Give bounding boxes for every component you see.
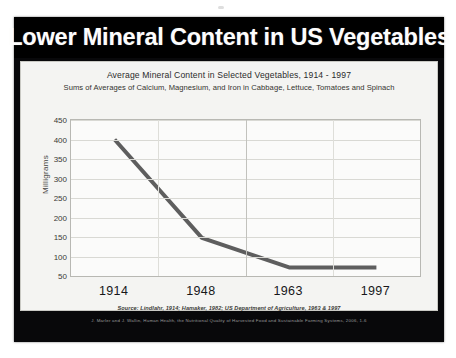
y-axis-tick-label: 150 bbox=[23, 233, 67, 242]
y-axis-tick-label: 50 bbox=[23, 272, 67, 281]
paper-speck bbox=[218, 6, 224, 9]
y-axis-tick-label: 100 bbox=[23, 252, 67, 261]
gridline-vertical bbox=[158, 120, 159, 276]
x-axis-tick-label: 1914 bbox=[69, 284, 159, 298]
chart-panel: Average Mineral Content in Selected Vege… bbox=[20, 61, 438, 311]
x-axis-tick-label: 1948 bbox=[156, 284, 246, 298]
y-axis-tick-label: 250 bbox=[23, 194, 67, 203]
x-axis-tick-label: 1997 bbox=[330, 284, 420, 298]
slide-title-band: Lower Mineral Content in US Vegetables bbox=[14, 17, 444, 58]
chart-source-note: Source: Lindlahr, 1914; Hamaker, 1982; U… bbox=[21, 305, 437, 311]
plot-area bbox=[70, 119, 421, 277]
x-axis-tick-label: 1963 bbox=[243, 284, 333, 298]
footer-citation: J. Marler and J. Wallin, Human Health, t… bbox=[14, 318, 444, 323]
y-axis-tick-labels: 45040035030025020015010050 bbox=[21, 119, 67, 277]
presentation-slide: Lower Mineral Content in US Vegetables A… bbox=[14, 17, 444, 342]
y-axis-tick-label: 350 bbox=[23, 155, 67, 164]
gridline-vertical bbox=[246, 120, 247, 276]
y-axis-tick-label: 300 bbox=[23, 174, 67, 183]
x-axis-tick-labels: 1914194819631997 bbox=[70, 284, 421, 302]
y-axis-tick-label: 450 bbox=[23, 116, 67, 125]
gridline-vertical bbox=[333, 120, 334, 276]
y-axis-tick-label: 200 bbox=[23, 213, 67, 222]
chart-title: Average Mineral Content in Selected Vege… bbox=[21, 70, 437, 80]
page-title: Lower Mineral Content in US Vegetables bbox=[8, 24, 450, 51]
chart-subtitle: Sums of Averages of Calcium, Magnesium, … bbox=[21, 83, 437, 92]
y-axis-tick-label: 400 bbox=[23, 135, 67, 144]
